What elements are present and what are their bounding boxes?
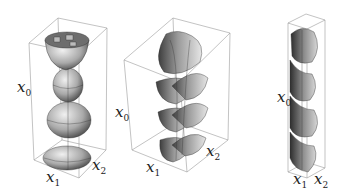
surface-plot-3 [250,0,347,190]
plot-panel-3: x0 x1 x2 [250,0,347,190]
surface-plot-2 [110,0,240,190]
plot-panel-2: x0 x1 x2 [110,0,240,190]
plot-panel-1: x0 x1 x2 [0,0,115,190]
axis-label-x1: x1 [293,172,307,190]
axis-label-x0: x0 [277,90,291,108]
spheroid-chain [43,32,91,170]
axis-label-x2: x2 [92,158,106,176]
axis-label-x2: x2 [206,144,220,162]
axis-label-x0: x0 [115,105,129,123]
axis-label-x1: x1 [46,170,60,188]
twisted-helix [290,28,318,172]
axis-label-x0: x0 [17,80,31,98]
axis-label-x1: x1 [146,160,160,178]
axis-label-x2: x2 [314,172,328,190]
helical-lobes [156,31,208,162]
